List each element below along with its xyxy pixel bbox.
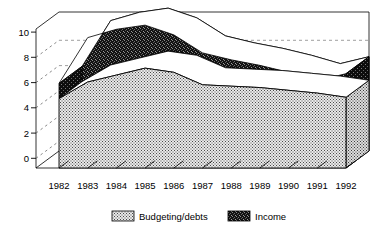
y-axis-ticks [31,32,36,158]
x-tick-label: 1990 [278,180,299,191]
y-tick-label: 6 [24,77,29,88]
chart-container: 10 8 6 4 2 0 198219831984198519861987198… [0,0,386,239]
x-tick-label: 1989 [249,180,270,191]
data-surfaces [59,8,369,168]
x-tick-label: 1987 [192,180,213,191]
x-tick-label: 1982 [48,180,69,191]
x-tick-label: 1983 [77,180,98,191]
y-tick-label: 2 [24,128,29,139]
x-tick-label: 1992 [335,180,356,191]
legend-label: Budgeting/debts [139,211,208,222]
y-tick-label: 10 [18,27,29,38]
x-tick-label: 1986 [163,180,184,191]
x-tick-label: 1988 [221,180,242,191]
y-axis-labels: 10 8 6 4 2 0 [18,27,29,164]
area-chart: 10 8 6 4 2 0 198219831984198519861987198… [0,0,386,239]
legend-label: Income [255,211,286,222]
legend-swatch-budgeting [112,211,134,221]
x-tick-label: 1991 [307,180,328,191]
y-tick-label: 8 [24,52,29,63]
legend-swatch-income [228,211,250,221]
x-tick-label: 1985 [135,180,156,191]
y-tick-label: 0 [24,153,29,164]
y-depth-connectors [36,40,59,158]
chart-legend: Budgeting/debtsIncome [112,211,286,222]
x-axis-labels: 1982198319841985198619871988198919901991… [48,180,356,191]
x-tick-label: 1984 [106,180,127,191]
y-tick-label: 4 [24,102,29,113]
